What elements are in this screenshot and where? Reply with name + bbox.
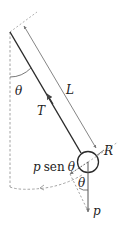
theta-angle-arc-top <box>10 68 31 77</box>
theta-label-top: θ <box>15 84 23 98</box>
pivot-perpendicular-line <box>10 12 37 32</box>
length-label: L <box>65 83 74 97</box>
theta-label-bottom: θ <box>78 176 86 190</box>
pendulum-diagram: θ L T R psenθ θ p <box>0 0 127 229</box>
tension-label: T <box>37 104 46 118</box>
swing-arc <box>10 175 82 189</box>
length-dimension-line <box>24 26 96 148</box>
weight-label: p <box>93 204 101 218</box>
tangential-force-label: psenθ <box>33 160 76 174</box>
radius-label: R <box>103 144 113 158</box>
tension-arrow <box>47 94 53 104</box>
radius-tick <box>96 150 104 156</box>
swing-arc-arrow <box>40 185 44 190</box>
